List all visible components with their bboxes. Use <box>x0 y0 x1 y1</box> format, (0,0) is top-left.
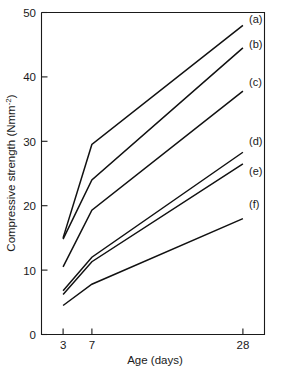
series-label-f: (f) <box>249 198 259 210</box>
y-axis-title-text: Compressive strength (Nmm-2) <box>4 94 17 251</box>
y-axis-title: Compressive strength (Nmm-2) <box>4 94 17 251</box>
plot-frame <box>42 13 265 335</box>
y-axis-tick-labels: 50 40 30 20 10 0 <box>23 7 36 341</box>
y-axis-title-base: Compressive strength (Nmm <box>5 105 17 251</box>
y-tick-label-50: 50 <box>23 7 36 19</box>
x-tick-label-7: 7 <box>89 339 95 351</box>
series-label-a: (a) <box>249 13 262 25</box>
y-axis-ticks <box>42 13 48 335</box>
series-label-c: (c) <box>249 76 262 88</box>
series-label-d: (d) <box>249 135 262 147</box>
y-axis-title-close: ) <box>5 94 17 98</box>
series-lines <box>63 25 243 305</box>
x-axis-ticks <box>63 329 243 335</box>
series-line-c <box>63 91 243 267</box>
series-labels: (a) (b) (c) (d) (e) (f) <box>249 13 262 210</box>
x-tick-label-3: 3 <box>60 339 66 351</box>
x-axis-tick-labels: 3 7 28 <box>60 339 249 351</box>
series-line-f <box>63 219 243 306</box>
y-tick-label-0: 0 <box>30 329 36 341</box>
y-tick-label-10: 10 <box>23 265 36 277</box>
x-tick-label-28: 28 <box>237 339 250 351</box>
y-tick-label-20: 20 <box>23 200 36 212</box>
series-line-a <box>63 25 243 238</box>
line-chart: 50 40 30 20 10 0 3 7 28 Age (days) Compr… <box>0 0 289 368</box>
y-tick-label-30: 30 <box>23 136 36 148</box>
x-axis-title: Age (days) <box>127 354 183 366</box>
chart-figure: 50 40 30 20 10 0 3 7 28 Age (days) Compr… <box>0 0 289 368</box>
series-line-b <box>63 48 243 239</box>
y-tick-label-40: 40 <box>23 71 36 83</box>
series-label-b: (b) <box>249 38 262 50</box>
series-label-e: (e) <box>249 165 262 177</box>
